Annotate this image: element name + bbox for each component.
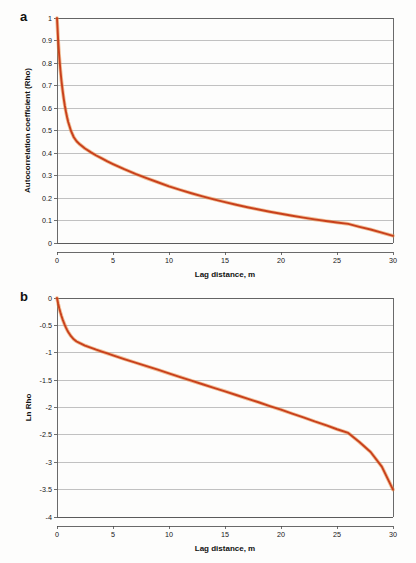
figure-container: a 00.10.20.30.40.50.60.70.80.91051015202… [0, 0, 416, 563]
y-tick-label: -2 [46, 403, 52, 412]
y-tick-label: -4 [46, 513, 52, 522]
x-tick-label: 0 [55, 256, 59, 265]
x-tick-label: 20 [277, 530, 285, 539]
x-tick-label: 5 [111, 256, 115, 265]
x-tick-label: 10 [165, 530, 173, 539]
x-tick-label: 0 [55, 530, 59, 539]
x-tick-label: 30 [389, 256, 397, 265]
y-axis-title: Autocorrelation coefficient (Rho) [23, 68, 32, 193]
chart-b: -4-3.5-3-2.5-2-1.5-1-0.50051015202530Lag… [0, 281, 416, 563]
y-tick-label: -1 [46, 348, 52, 357]
series-line-halo [57, 18, 393, 236]
x-tick-label: 25 [333, 256, 341, 265]
y-tick-label: 0.5 [42, 126, 52, 135]
y-tick-label: 0.7 [42, 81, 52, 90]
y-tick-label: -3.5 [40, 485, 52, 494]
panel-b: b -4-3.5-3-2.5-2-1.5-1-0.50051015202530L… [0, 281, 416, 563]
y-tick-label: 0.8 [42, 59, 52, 68]
x-axis-title: Lag distance, m [195, 544, 255, 553]
y-tick-label: -3 [46, 458, 52, 467]
x-tick-label: 5 [111, 530, 115, 539]
x-tick-label: 20 [277, 256, 285, 265]
x-tick-label: 15 [221, 256, 229, 265]
y-tick-label: 0.2 [42, 194, 52, 203]
x-tick-label: 25 [333, 530, 341, 539]
y-tick-label: 0.6 [42, 104, 52, 113]
y-tick-label: 0.3 [42, 171, 52, 180]
y-axis-title: Ln Rho [24, 394, 33, 422]
y-tick-label: -0.5 [40, 321, 52, 330]
x-tick-label: 15 [221, 530, 229, 539]
y-tick-label: 0 [48, 239, 52, 248]
series-line [57, 298, 393, 490]
y-tick-label: 0 [48, 294, 52, 303]
y-tick-label: -1.5 [40, 376, 52, 385]
panel-a: a 00.10.20.30.40.50.60.70.80.91051015202… [0, 0, 416, 283]
x-tick-label: 30 [389, 530, 397, 539]
y-tick-label: 0.9 [42, 36, 52, 45]
y-tick-label: -2.5 [40, 430, 52, 439]
y-tick-label: 1 [48, 14, 52, 23]
chart-a: 00.10.20.30.40.50.60.70.80.9105101520253… [0, 0, 416, 283]
y-tick-label: 0.1 [42, 216, 52, 225]
x-axis-title: Lag distance, m [195, 270, 255, 279]
x-tick-label: 10 [165, 256, 173, 265]
y-tick-label: 0.4 [42, 149, 52, 158]
series-line-halo [57, 298, 393, 490]
